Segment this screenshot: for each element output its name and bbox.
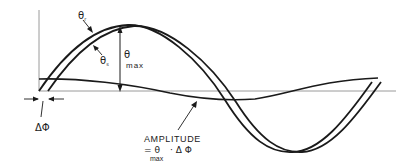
theta-r-arrowhead bbox=[87, 26, 93, 33]
theta-s-label: θs bbox=[100, 55, 109, 67]
delta-phi-left-arrowhead bbox=[33, 97, 39, 102]
phase-difference-diagram: θr θs θ max ΔΦ AMPLITUDE = θ max · Δ Φ bbox=[0, 0, 409, 168]
delta-phi-right-arrowhead bbox=[48, 97, 54, 102]
amplitude-title: AMPLITUDE bbox=[144, 134, 201, 144]
amplitude-arrowhead bbox=[191, 101, 197, 108]
theta-max-subscript: max bbox=[126, 61, 144, 70]
theta-max-label: θ bbox=[124, 49, 130, 60]
delta-phi-label: ΔΦ bbox=[35, 122, 50, 133]
amplitude-curve bbox=[39, 78, 378, 100]
amplitude-equation: = θ bbox=[144, 145, 160, 155]
amplitude-leader bbox=[178, 104, 195, 130]
amplitude-equation-subscript: max bbox=[150, 155, 164, 162]
delta-phi-leader bbox=[41, 101, 43, 117]
theta-r-label: θr bbox=[78, 10, 87, 22]
amplitude-equation-suffix: · Δ Φ bbox=[170, 145, 192, 155]
